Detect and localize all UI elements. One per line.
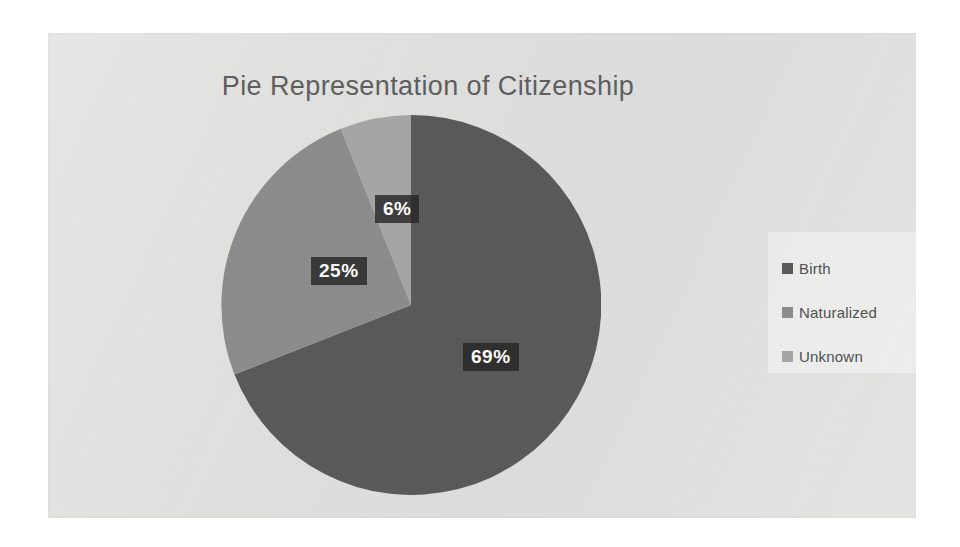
data-label-naturalized: 25% [311,257,367,285]
page-background: Pie Representation of Citizenship 69% 25… [0,0,960,547]
chart-panel: Pie Representation of Citizenship 69% 25… [48,33,916,518]
legend-swatch-naturalized [782,307,793,318]
chart-title: Pie Representation of Citizenship [48,71,808,102]
data-label-birth: 69% [463,343,519,371]
legend-item-naturalized[interactable]: Naturalized [782,290,918,334]
legend-item-unknown[interactable]: Unknown [782,334,918,378]
legend-swatch-unknown [782,351,793,362]
legend-swatch-birth [782,263,793,274]
legend-label-naturalized: Naturalized [799,304,877,321]
data-label-unknown: 6% [375,195,419,223]
chart-legend: Birth Naturalized Unknown [768,232,918,373]
pie-svg [221,115,601,495]
legend-label-unknown: Unknown [799,348,863,365]
pie-chart [221,115,601,495]
legend-label-birth: Birth [799,260,831,277]
legend-item-birth[interactable]: Birth [782,246,918,290]
